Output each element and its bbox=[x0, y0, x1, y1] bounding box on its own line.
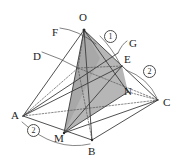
point-label-N: N bbox=[124, 86, 132, 97]
point-label-O: O bbox=[79, 12, 87, 23]
vertex-dot-O bbox=[83, 29, 86, 32]
point-label-E: E bbox=[124, 54, 131, 65]
vertex-dot-B bbox=[91, 139, 93, 141]
point-label-F: F bbox=[52, 27, 58, 38]
point-label-G: G bbox=[129, 38, 137, 49]
ratio-badge-1: 1 bbox=[104, 30, 117, 43]
ratio-badge-2-right: 2 bbox=[143, 65, 156, 78]
point-label-C: C bbox=[163, 97, 170, 108]
geometry-figure: O F D G E N C A M B 1 2 2 bbox=[0, 0, 180, 163]
ratio-badge-2-left: 2 bbox=[27, 124, 40, 137]
leader-D bbox=[42, 52, 78, 68]
geometry-svg bbox=[0, 0, 180, 163]
point-label-D: D bbox=[33, 51, 41, 62]
point-label-M: M bbox=[54, 133, 64, 144]
point-label-B: B bbox=[88, 146, 95, 157]
leader-G bbox=[118, 41, 127, 53]
point-label-A: A bbox=[11, 110, 19, 121]
